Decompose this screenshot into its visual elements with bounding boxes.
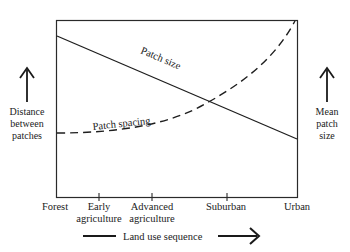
tick-label-early-2: agriculture [76, 213, 122, 224]
left-axis-label-line3: patches [12, 130, 42, 141]
left-up-arrow-icon [20, 68, 34, 102]
left-axis-label-line1: Distance [10, 106, 46, 117]
tick-label-advanced-2: agriculture [129, 213, 175, 224]
tick-label-early-1: Early [88, 201, 111, 212]
tick-label-forest: Forest [42, 201, 68, 212]
land-use-diagram: Patch size Patch spacing Distance betwee… [0, 0, 350, 252]
right-arrow-icon [218, 228, 259, 244]
left-axis-label-line2: between [10, 118, 43, 129]
plot-frame [57, 21, 298, 198]
patch-spacing-label: Patch spacing [92, 115, 152, 132]
x-axis-title: Land use sequence [123, 231, 203, 242]
right-up-arrow-icon [320, 68, 334, 102]
right-axis-label-line3: size [319, 130, 335, 141]
patch-spacing-curve [57, 21, 295, 133]
patch-size-label: Patch size [139, 45, 183, 72]
right-axis-label-line2: patch [316, 118, 338, 129]
tick-label-urban: Urban [284, 201, 311, 212]
tick-label-advanced-1: Advanced [131, 201, 174, 212]
tick-label-suburban: Suburban [206, 201, 247, 212]
right-axis-label-line1: Mean [316, 106, 339, 117]
